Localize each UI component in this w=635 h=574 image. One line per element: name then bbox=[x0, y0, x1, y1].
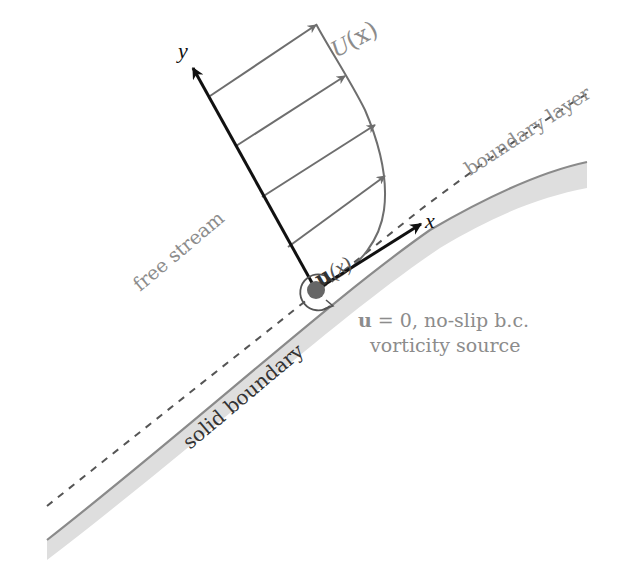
profile-arrow-4 bbox=[288, 176, 385, 247]
velocity-profile bbox=[210, 24, 385, 280]
free-stream-label: free stream bbox=[128, 206, 228, 295]
y-axis-label: y bbox=[176, 38, 188, 63]
solid-boundary bbox=[47, 162, 587, 560]
profile-arrow-1 bbox=[210, 25, 316, 96]
profile-arrow-2 bbox=[236, 76, 345, 146]
profile-label: U(x) bbox=[326, 15, 383, 63]
profile-arrow-3 bbox=[262, 125, 375, 197]
profile-curve bbox=[316, 24, 385, 280]
no-slip-label-u: u bbox=[358, 309, 372, 331]
no-slip-label: u = 0, no-slip b.c. bbox=[358, 309, 529, 331]
boundary-layer-diagram: y x U(x) u(x) boundary layer free stream… bbox=[0, 0, 635, 574]
x-axis-label: x bbox=[424, 208, 435, 233]
y-axis bbox=[193, 68, 316, 290]
no-slip-label-rest: = 0, no-slip b.c. bbox=[372, 309, 529, 331]
vorticity-source-label: vorticity source bbox=[369, 334, 521, 356]
solid-boundary-label: solid boundary bbox=[178, 338, 309, 454]
solid-boundary-fill bbox=[47, 162, 587, 560]
